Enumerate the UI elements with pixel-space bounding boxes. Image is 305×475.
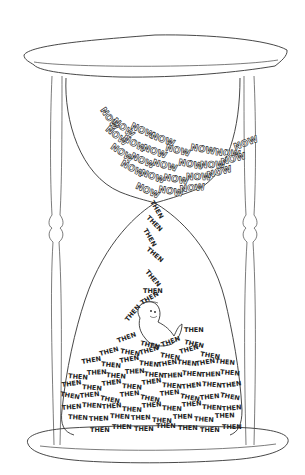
then-word: THEN: [101, 377, 122, 388]
then-word: THEN: [125, 367, 145, 376]
hourglass-illustration: NOWNOWNOWNOWNOWNOWNOWNOWNOWNOWNOWNOWNOWN…: [0, 0, 305, 475]
then-word: THEN: [182, 369, 202, 379]
now-word: NOW: [134, 181, 161, 201]
then-word: THEN: [157, 358, 178, 369]
then-word: THEN: [119, 389, 139, 399]
then-word: THEN: [159, 388, 179, 398]
then-word: THEN: [202, 403, 222, 412]
then-word: THEN: [181, 399, 201, 409]
then-word: THEN: [79, 390, 99, 400]
falling-then-words: THENTHENTHENTHENTHENTHENTHENTHENTHEN: [123, 199, 203, 334]
top-plate: [24, 35, 287, 77]
then-word: THEN: [119, 354, 140, 365]
then-word: THEN: [178, 424, 198, 432]
then-word: THEN: [220, 368, 240, 378]
lower-sand-then-pile: THENTHENTHENTHENTHENTHENTHENTHENTHENTHEN…: [60, 331, 242, 434]
then-word: THEN: [110, 412, 130, 421]
then-word: THEN: [215, 357, 235, 367]
then-word: THEN: [221, 379, 242, 390]
then-word: THEN: [98, 345, 119, 358]
then-word: THEN: [141, 376, 162, 387]
then-word: THEN: [143, 268, 162, 288]
then-word: THEN: [61, 402, 81, 412]
then-word: THEN: [184, 326, 204, 334]
then-word: THEN: [101, 401, 121, 411]
then-word: THEN: [220, 391, 241, 402]
then-word: THEN: [162, 404, 182, 413]
then-word: THEN: [178, 343, 199, 356]
then-word: THEN: [202, 380, 222, 390]
then-word: THEN: [112, 423, 132, 431]
now-word: NOW: [190, 142, 217, 156]
then-word: THEN: [141, 400, 161, 410]
then-word: THEN: [116, 331, 137, 345]
then-word: THEN: [90, 426, 110, 434]
now-word: NOW: [164, 142, 191, 158]
then-word: THEN: [131, 413, 151, 422]
then-word: THEN: [82, 401, 102, 410]
then-word: THEN: [61, 378, 82, 389]
then-word: THEN: [134, 425, 154, 433]
then-word: THEN: [156, 422, 176, 430]
then-word: THEN: [201, 370, 221, 379]
then-word: THEN: [194, 415, 214, 424]
then-word: THEN: [68, 413, 88, 422]
then-word: THEN: [181, 380, 202, 391]
then-word: THEN: [163, 371, 183, 380]
now-word: NOW: [179, 182, 205, 194]
upper-sand-now-words: NOWNOWNOWNOWNOWNOWNOWNOWNOWNOWNOWNOWNOWN…: [98, 105, 259, 200]
then-word: THEN: [215, 411, 235, 420]
then-word: THEN: [160, 335, 181, 349]
then-word: THEN: [222, 423, 242, 431]
then-word: THEN: [173, 412, 193, 421]
right-pillar: [243, 76, 257, 445]
then-word: THEN: [81, 355, 102, 366]
then-word: THEN: [195, 357, 216, 368]
now-word: NOW: [151, 157, 178, 173]
then-word: THEN: [145, 245, 165, 264]
then-word: THEN: [89, 414, 109, 423]
then-word: THEN: [87, 368, 107, 377]
then-word: THEN: [199, 392, 219, 402]
then-word: THEN: [200, 426, 220, 434]
